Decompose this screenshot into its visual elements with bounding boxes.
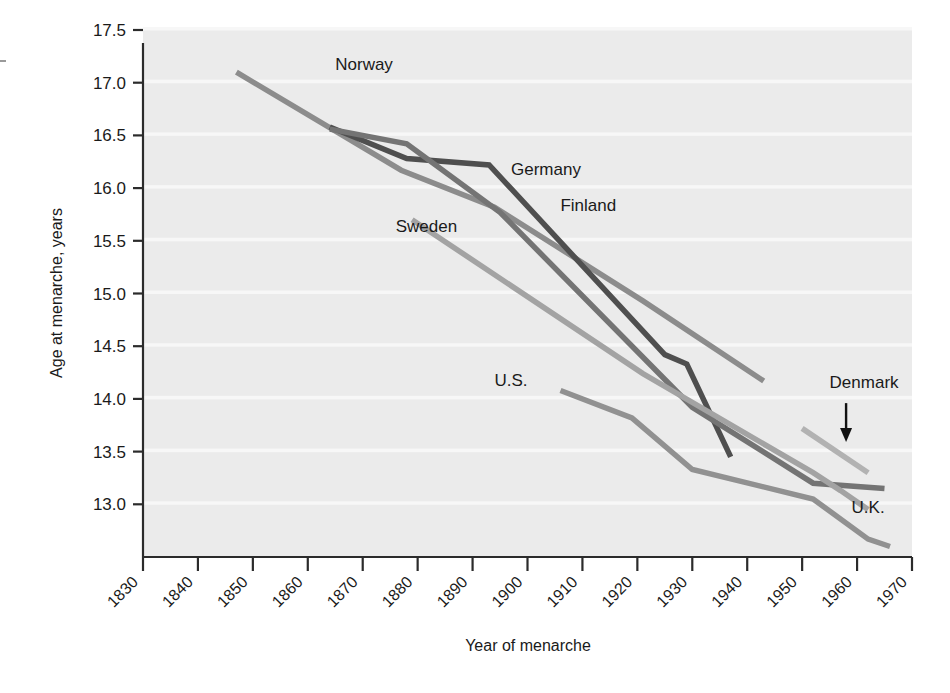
menarche-age-line-chart: NorwayGermanyFinlandSwedenU.S.DenmarkU.K… — [0, 0, 950, 693]
x-tick-label: 1960 — [818, 573, 855, 610]
gridline — [143, 185, 912, 189]
gridline — [143, 449, 912, 453]
gridline — [143, 396, 912, 400]
x-tick-label: 1940 — [708, 573, 745, 610]
y-tick-label: 16.5 — [93, 126, 126, 145]
x-axis-title: Year of menarche — [465, 637, 591, 654]
page-edge-mark — [0, 60, 6, 62]
series-label-us: U.S. — [495, 371, 528, 390]
y-axis — [133, 30, 143, 557]
x-tick-labels: 1830184018501860187018801890190019101920… — [104, 573, 910, 610]
x-tick-label: 1860 — [269, 573, 306, 610]
series-label-norway: Norway — [335, 55, 393, 74]
series-label-uk: U.K. — [852, 498, 885, 517]
x-tick-label: 1950 — [763, 573, 800, 610]
y-tick-label: 17.0 — [93, 74, 126, 93]
chart-figure: NorwayGermanyFinlandSwedenU.S.DenmarkU.K… — [0, 0, 950, 693]
y-tick-label: 13.5 — [93, 443, 126, 462]
x-tick-label: 1970 — [873, 573, 910, 610]
series-label-denmark: Denmark — [830, 373, 899, 392]
y-tick-labels: 13.013.514.014.515.015.516.016.517.017.5 — [93, 21, 126, 514]
series-label-sweden: Sweden — [396, 217, 457, 236]
gridline — [143, 501, 912, 505]
x-axis — [143, 557, 912, 571]
x-tick-label: 1930 — [653, 573, 690, 610]
x-tick-label: 1840 — [159, 573, 196, 610]
y-tick-label: 17.5 — [93, 21, 126, 40]
x-tick-label: 1880 — [379, 573, 416, 610]
x-tick-label: 1920 — [598, 573, 635, 610]
gridline — [143, 132, 912, 136]
x-tick-label: 1910 — [543, 573, 580, 610]
y-tick-label: 14.5 — [93, 337, 126, 356]
y-tick-label: 13.0 — [93, 495, 126, 514]
y-tick-label: 15.0 — [93, 285, 126, 304]
gridline — [143, 27, 912, 31]
x-tick-label: 1890 — [434, 573, 471, 610]
y-axis-title: Age at menarche, years — [48, 208, 65, 378]
y-tick-label: 16.0 — [93, 179, 126, 198]
series-label-germany: Germany — [511, 160, 581, 179]
x-tick-label: 1850 — [214, 573, 251, 610]
series-label-finland: Finland — [560, 196, 616, 215]
x-tick-label: 1870 — [324, 573, 361, 610]
x-tick-label: 1830 — [104, 573, 141, 610]
x-tick-label: 1900 — [488, 573, 525, 610]
y-tick-label: 15.5 — [93, 232, 126, 251]
gridline — [143, 343, 912, 347]
y-tick-label: 14.0 — [93, 390, 126, 409]
